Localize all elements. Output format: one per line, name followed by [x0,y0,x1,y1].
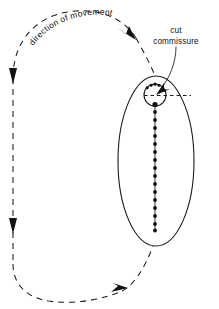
nerve-cord-ganglion [153,118,157,122]
nerve-cord-ganglion [153,166,157,170]
movement-arrow-left-upper-icon [9,68,17,84]
nerve-cord-ganglion [153,110,157,114]
head-arc-dot [150,84,153,87]
movement-path-group [9,11,155,302]
nerve-cord-ganglion [152,102,157,107]
movement-diagram: direction of movement cut commissure [0,0,219,309]
nerve-cord-ganglion [153,142,157,146]
nerve-cord-ganglion [153,134,157,138]
movement-path-bottom-right [122,246,153,291]
nerve-cord-ganglion [153,206,157,210]
movement-path-bottom-arc [13,264,122,302]
figure-container: direction of movement cut commissure [0,0,219,309]
nerve-cord-ganglion [153,198,157,202]
nerve-cord-ganglion [153,126,157,130]
cut-commissure-leader-line [160,47,176,90]
head-arc-dot [158,84,161,87]
nerve-cord-chain-group [152,102,157,233]
head-arc-dot [146,86,149,89]
nerve-cord-ganglion [153,190,157,194]
cut-commissure-label-line2: commissure [153,37,199,46]
nerve-cord-ganglion [153,182,157,186]
nerve-cord-ganglion [153,150,157,154]
movement-arrow-left-lower-icon [9,218,17,234]
cut-commissure-label-line1: cut [170,26,182,35]
direction-of-movement-textpath: direction of movement [27,6,114,47]
movement-arrow-top-right-icon [117,26,136,40]
movement-arrow-bottom-icon [111,283,128,292]
nerve-cord-ganglion [153,229,157,233]
nerve-cord-ganglion [153,174,157,178]
nerve-cord-ganglion [153,158,157,162]
cut-commissure-leader-group [156,47,176,95]
movement-path-right-descent [136,38,155,76]
nerve-cord-ganglion [153,214,157,218]
direction-of-movement-label: direction of movement [27,6,114,47]
head-arc-dot [153,83,156,86]
nerve-cord-ganglion [153,222,157,226]
